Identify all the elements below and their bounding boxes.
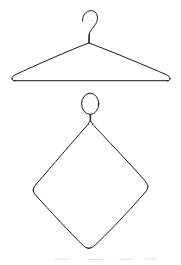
background: [0, 0, 181, 265]
line-drawing-artboard: [0, 0, 181, 265]
drawing-canvas: Wire hanger line drawing Wire coat hange…: [0, 0, 181, 265]
